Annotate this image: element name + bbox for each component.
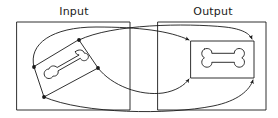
mapping-arrow-left-to-topleft bbox=[33, 27, 189, 67]
output-bone-shape bbox=[202, 48, 245, 67]
source-corner-dots bbox=[32, 38, 100, 99]
diagram-canvas: Input Output bbox=[0, 0, 278, 118]
mapping-diagram bbox=[0, 0, 278, 118]
mapping-arrow-bottom-to-bottomright bbox=[44, 80, 253, 112]
mapping-arrow-right-to-bottomleft bbox=[98, 68, 189, 94]
input-region-quad bbox=[34, 40, 98, 97]
input-bone-shape bbox=[44, 50, 88, 79]
output-region-rect bbox=[191, 41, 254, 78]
